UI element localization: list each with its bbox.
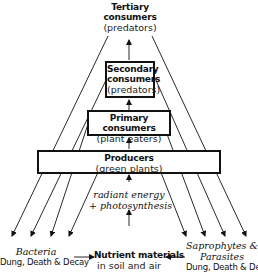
tertiary-title-2: consumers <box>95 12 165 22</box>
primary-title: Primary consumers <box>89 113 169 133</box>
bacteria-title: Bacteria <box>0 246 72 257</box>
saprophytes-title-2: Parasites <box>186 251 258 262</box>
tertiary-title-1: Tertiary <box>95 2 165 12</box>
tertiary-consumers-label: Tertiary consumers (predators) <box>95 2 165 33</box>
producers-title: Producers <box>39 153 219 163</box>
primary-consumers-box: Primary consumers (plant eaters) <box>87 110 171 136</box>
secondary-title-2: consumers <box>107 74 153 84</box>
energy-line-1: radiant energy <box>89 189 169 200</box>
saprophytes-subtitle: Dung, Death & Decay <box>186 262 258 272</box>
saprophytes-label: Saprophytes & Parasites Dung, Death & De… <box>186 240 258 272</box>
nutrient-title: Nutrient materials <box>94 250 164 260</box>
tertiary-subtitle: (predators) <box>95 22 165 33</box>
saprophytes-title-1: Saprophytes & <box>186 240 258 251</box>
energy-line-2: + photosynthesis <box>89 200 169 211</box>
radiant-energy-label: radiant energy + photosynthesis <box>89 189 169 211</box>
primary-subtitle: (plant eaters) <box>89 133 169 144</box>
producers-subtitle: (green plants) <box>39 163 219 174</box>
secondary-subtitle: (predators) <box>107 84 153 95</box>
producers-box: Producers (green plants) <box>37 150 221 174</box>
nutrient-materials-label: Nutrient materials in soil and air <box>94 250 164 271</box>
bacteria-subtitle: Dung, Death & Decay <box>0 257 72 267</box>
secondary-title-1: Secondary <box>107 64 153 74</box>
secondary-consumers-box: Secondary consumers (predators) <box>105 61 155 98</box>
nutrient-subtitle: in soil and air <box>94 260 164 271</box>
bacteria-label: Bacteria Dung, Death & Decay <box>0 246 72 267</box>
